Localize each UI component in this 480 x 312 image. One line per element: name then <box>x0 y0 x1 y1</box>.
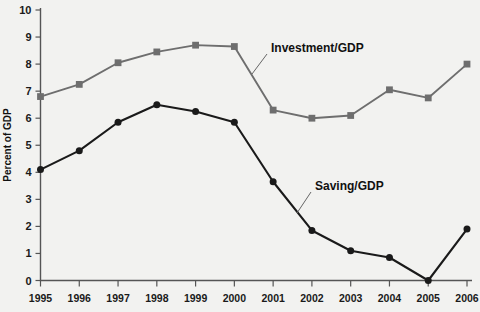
data-point-marker <box>270 178 277 185</box>
x-tick-label: 2006 <box>455 292 479 304</box>
y-axis-title: Percent of GDP <box>2 108 13 182</box>
y-tick-label: 10 <box>19 4 31 16</box>
data-point-marker <box>153 101 160 108</box>
x-tick-label: 1998 <box>145 292 169 304</box>
data-point-marker <box>270 107 277 114</box>
chart-background <box>0 0 480 312</box>
data-point-marker <box>192 108 199 115</box>
y-tick-label: 4 <box>25 166 32 178</box>
data-point-marker <box>425 277 432 284</box>
data-point-marker <box>153 49 160 56</box>
data-point-marker <box>464 61 471 68</box>
y-tick-label: 1 <box>25 247 31 259</box>
data-point-marker <box>464 226 471 233</box>
x-tick-label: 2004 <box>378 292 402 304</box>
data-point-marker <box>115 119 122 126</box>
y-tick-label: 0 <box>25 275 31 287</box>
data-point-marker <box>192 42 199 49</box>
y-tick-label: 9 <box>25 31 31 43</box>
line-chart: 012345678910 199519961997199819992000200… <box>0 0 480 312</box>
data-point-marker <box>347 247 354 254</box>
x-tick-label: 2005 <box>417 292 441 304</box>
data-point-marker <box>76 81 83 88</box>
x-tick-label: 1996 <box>68 292 92 304</box>
y-tick-label: 3 <box>25 193 31 205</box>
y-tick-label: 5 <box>25 139 31 151</box>
y-tick-label: 6 <box>25 112 31 124</box>
data-point-marker <box>231 43 238 50</box>
y-tick-label: 7 <box>25 85 31 97</box>
data-point-marker <box>386 254 393 261</box>
x-tick-label: 1997 <box>106 292 130 304</box>
data-point-marker <box>115 59 122 66</box>
x-tick-label: 2001 <box>261 292 285 304</box>
x-tick-label: 2000 <box>223 292 247 304</box>
data-point-marker <box>386 86 393 93</box>
data-point-marker <box>308 227 315 234</box>
x-tick-label: 1999 <box>184 292 208 304</box>
saving-series-label: Saving/GDP <box>315 179 384 193</box>
data-point-marker <box>76 147 83 154</box>
data-point-marker <box>231 119 238 126</box>
data-point-marker <box>309 115 316 122</box>
data-point-marker <box>37 166 44 173</box>
chart-container: 012345678910 199519961997199819992000200… <box>0 0 480 312</box>
data-point-marker <box>37 93 44 100</box>
data-point-marker <box>347 112 354 119</box>
y-tick-label: 8 <box>25 58 31 70</box>
data-point-marker <box>425 95 432 102</box>
x-tick-label: 2003 <box>339 292 363 304</box>
x-tick-label: 2002 <box>300 292 324 304</box>
y-tick-label: 2 <box>25 220 31 232</box>
x-tick-label: 1995 <box>29 292 53 304</box>
investment-series-label: Investment/GDP <box>271 41 364 55</box>
